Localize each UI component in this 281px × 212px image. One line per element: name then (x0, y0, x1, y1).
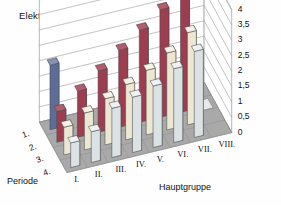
y-axis-tick: 3,5 (238, 19, 250, 29)
x-axis-label-group-3: III. (115, 164, 126, 174)
y-axis-tick: 0,5 (238, 111, 250, 121)
axis-title-periode: Periode (7, 176, 38, 186)
bar-face (112, 106, 121, 157)
chart-root: Elektronegativität 00,511,522,533,54I.II… (0, 0, 281, 212)
image-border (0, 206, 281, 212)
bar-face (174, 67, 183, 143)
y-axis-tick: 3 (238, 34, 243, 44)
y-axis-tick: 2 (238, 65, 243, 75)
bar-face (71, 141, 80, 168)
x-axis-label-group-1: I. (74, 174, 79, 184)
y-axis-tick: 0 (238, 127, 243, 137)
y-axis-tick: 4 (238, 4, 243, 14)
chart-3d-scene (0, 0, 281, 212)
y-axis-tick: 2,5 (238, 50, 250, 60)
x-axis-label-group-6: VI. (177, 149, 188, 159)
bar-face (194, 49, 203, 137)
bar-face (132, 95, 141, 153)
x-axis-label-group-2: II. (95, 169, 103, 179)
bar-face (153, 84, 162, 148)
bar-face (91, 130, 100, 163)
chart-canvas (0, 0, 281, 212)
y-axis-tick: 1,5 (238, 80, 250, 90)
x-axis-label-group-7: VII. (198, 144, 212, 154)
x-axis-label-group-8: VIII. (218, 139, 235, 149)
axis-title-hauptgruppe: Hauptgruppe (159, 182, 211, 192)
x-axis-label-group-5: V. (157, 154, 164, 164)
x-axis-label-group-4: IV. (136, 159, 146, 169)
y-axis-tick: 1 (238, 96, 243, 106)
